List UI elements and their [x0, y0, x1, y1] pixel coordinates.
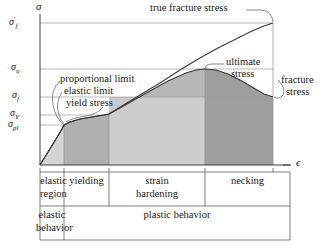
region-label-elastic-region-line2: region [40, 189, 64, 200]
behavior-label-elastic-line1: elastic [38, 210, 66, 221]
region-label-strain-hardening-line1: strain [109, 176, 205, 187]
behavior-label-elastic-line2: behavior [36, 223, 68, 234]
x-axis-symbol: ϵ [296, 157, 300, 168]
annotation-proportional-limit: proportional limit [60, 74, 134, 85]
stress-strain-diagram: σ ϵ σ′f σu σf σY σpl true fracture stres… [0, 0, 321, 245]
annotation-elastic-limit: elastic limit [64, 86, 113, 97]
behavior-label-plastic: plastic behavior [64, 210, 290, 221]
y-axis-symbol: σ [36, 1, 41, 12]
annotation-ultimate-stress-line2: stress [231, 69, 254, 80]
shade-necking-region [205, 69, 273, 165]
leader-true-fracture-stress [246, 10, 273, 22]
ytick-label-sub: f [15, 22, 17, 30]
region-tick-marks [40, 168, 273, 172]
ytick-proportional-limit: σpl [8, 119, 18, 132]
ytick-true-fracture-stress: σ′f [9, 16, 17, 31]
annotation-yield-stress: yield stress [66, 98, 113, 109]
ytick-label-sub: u [16, 67, 20, 75]
ytick-fracture-stress: σf [12, 90, 19, 103]
annotation-fracture-stress-line1: fracture [281, 75, 314, 86]
ytick-ultimate-stress: σu [11, 62, 19, 75]
ytick-label-sub: pl [13, 124, 18, 132]
annotation-ultimate-stress-line1: ultimate [226, 57, 260, 68]
region-label-necking: necking [205, 176, 290, 187]
region-label-yielding: yielding [64, 176, 109, 187]
annotation-fracture-stress-line2: stress [286, 87, 309, 98]
region-label-elastic-region-line1: elastic [40, 176, 64, 187]
annotation-true-fracture-stress: true fracture stress [150, 3, 228, 14]
region-label-strain-hardening-line2: hardening [109, 189, 205, 200]
leader-ultimate-stress [205, 64, 224, 68]
ytick-label-sub: f [17, 95, 19, 103]
